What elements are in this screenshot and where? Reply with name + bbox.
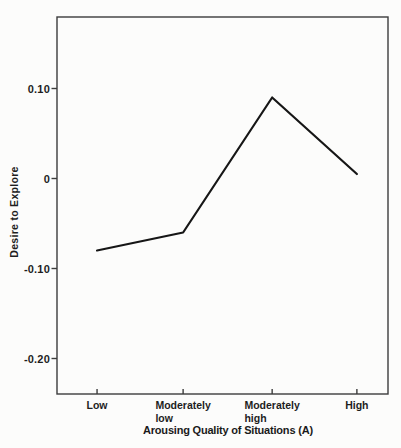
- data-line-series: [97, 98, 357, 251]
- x-axis-ticks: [97, 389, 357, 394]
- x-axis-title: Arousing Quality of Situations(A): [143, 424, 313, 436]
- axis-box: [57, 17, 388, 394]
- x-axis-title-main: Arousing Quality of Situations: [143, 424, 295, 436]
- xtick-label: Moderately low: [155, 399, 210, 424]
- ytick-label: -0.10: [0, 262, 50, 276]
- y-axis-ticks: [52, 89, 58, 359]
- xtick-label: Moderately high: [244, 399, 299, 424]
- ytick-label: -0.20: [0, 352, 50, 366]
- plot-area: [0, 0, 401, 448]
- y-axis-title: Desire to Explore: [8, 166, 20, 257]
- xtick-label: High: [345, 399, 368, 412]
- x-axis-title-emphasis: (A): [298, 424, 313, 436]
- ytick-label: 0.10: [0, 82, 50, 96]
- xtick-label: Low: [87, 399, 108, 412]
- line-chart-figure: 0.10 0 -0.10 -0.20 Low Moderately low Mo…: [0, 0, 401, 448]
